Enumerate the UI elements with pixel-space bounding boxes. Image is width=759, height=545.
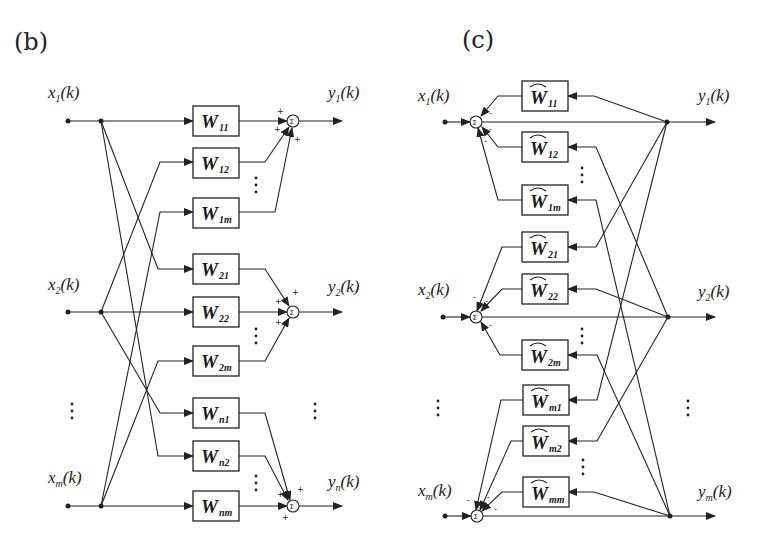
svg-text:W: W — [201, 203, 219, 224]
block-What21: W21 — [522, 232, 568, 262]
svg-text:+: + — [277, 107, 284, 116]
svg-text:11: 11 — [548, 98, 557, 109]
summing-junction-b2: Σ + + + — [239, 269, 342, 361]
svg-text:-: - — [489, 109, 492, 118]
svg-text:2m: 2m — [547, 357, 561, 368]
summing-junction-b3: Σ + + + — [239, 413, 342, 522]
summing-junction-b1: Σ + + + — [239, 107, 342, 212]
svg-text:Σ: Σ — [290, 309, 294, 317]
svg-text:-: - — [484, 137, 487, 146]
svg-text:Σ: Σ — [474, 513, 478, 521]
svg-text:m1: m1 — [549, 402, 562, 413]
svg-text:W: W — [531, 432, 549, 453]
summing-junction-c3: Σ - - - — [467, 400, 523, 522]
svg-text:W: W — [201, 153, 219, 174]
input-lines-b — [66, 119, 194, 509]
svg-text:Σ: Σ — [290, 503, 294, 511]
svg-text:21: 21 — [218, 270, 229, 281]
input-label-xm: xm(k) — [47, 468, 82, 489]
svg-text:1m: 1m — [219, 214, 232, 225]
svg-text:12: 12 — [219, 164, 229, 175]
svg-text:W: W — [201, 111, 219, 132]
svg-text:W: W — [530, 191, 548, 212]
svg-text:W: W — [201, 403, 219, 424]
block-W2m: W2m — [193, 346, 239, 376]
panel-c-label: (c) — [462, 26, 494, 54]
svg-text:+: + — [297, 485, 304, 494]
panel-b-label: (b) — [14, 28, 48, 56]
svg-text:+: + — [275, 297, 282, 306]
svg-text:+: + — [294, 135, 301, 144]
block-Whatmm: Wmm — [523, 477, 569, 507]
svg-text:22: 22 — [218, 313, 229, 324]
block-What2m: W2m — [522, 340, 568, 370]
block-W11: W11 — [193, 106, 239, 136]
svg-text:Σ: Σ — [473, 314, 477, 322]
svg-text:W: W — [530, 346, 548, 367]
svg-text:W: W — [531, 483, 549, 504]
svg-text:22: 22 — [547, 291, 558, 302]
svg-text:21: 21 — [547, 249, 558, 260]
svg-text:12: 12 — [548, 149, 558, 160]
output-label-y2: y2(k) — [326, 277, 360, 298]
svg-text:+: + — [277, 490, 284, 499]
output-label-y2: y2(k) — [696, 282, 730, 303]
svg-text:W: W — [530, 280, 548, 301]
svg-text:W: W — [530, 87, 548, 108]
block-W1m: W1m — [193, 198, 239, 228]
svg-text:Σ: Σ — [473, 119, 477, 127]
output-label-ym: ym(k) — [696, 482, 732, 503]
block-Wn1: Wn1 — [193, 398, 239, 428]
svg-text:m2: m2 — [549, 443, 562, 454]
svg-text:-: - — [489, 125, 492, 134]
summing-junction-c2: Σ - - - — [470, 247, 522, 355]
svg-text:Σ: Σ — [290, 118, 294, 126]
svg-text:-: - — [494, 505, 497, 514]
svg-text:mm: mm — [549, 494, 565, 505]
svg-text:11: 11 — [219, 122, 228, 133]
svg-text:n2: n2 — [219, 457, 230, 468]
block-W12: W12 — [193, 148, 239, 178]
input-label-x2: x2(k) — [47, 275, 80, 296]
svg-text:+: + — [275, 318, 282, 327]
svg-text:W: W — [530, 138, 548, 159]
block-Whatm2: Wm2 — [523, 426, 569, 456]
diagram-canvas: (b) x1(k) x2(k) xm(k) y1(k) y2(k) yn(k) — [0, 0, 759, 545]
input-label-x2: x2(k) — [417, 280, 450, 301]
block-What11: W11 — [522, 81, 568, 111]
svg-text:1m: 1m — [548, 202, 561, 213]
svg-text:+: + — [274, 125, 281, 134]
panel-b: (b) x1(k) x2(k) xm(k) y1(k) y2(k) yn(k) — [14, 28, 360, 522]
block-Wn2: Wn2 — [193, 441, 239, 471]
feedback-lines-c — [568, 96, 670, 516]
svg-text:n1: n1 — [219, 414, 230, 425]
svg-text:-: - — [467, 496, 470, 505]
panel-c: (c) x1(k) x2(k) xm(k) y1(k) y2(k) ym(k) — [417, 26, 732, 522]
summing-junction-c1: Σ - - - — [470, 96, 522, 200]
svg-text:-: - — [487, 493, 490, 502]
block-W22: W22 — [193, 297, 239, 327]
output-label-y1: y1(k) — [696, 86, 730, 107]
input-label-x1: x1(k) — [47, 83, 80, 104]
svg-text:W: W — [201, 446, 219, 467]
svg-text:2m: 2m — [218, 362, 232, 373]
output-label-yn: yn(k) — [326, 472, 360, 493]
svg-text:-: - — [485, 297, 488, 306]
block-W21: W21 — [193, 254, 239, 284]
svg-text:nm: nm — [219, 507, 233, 518]
block-Wnm: Wnm — [193, 491, 239, 521]
input-label-x1: x1(k) — [417, 86, 450, 107]
svg-text:W: W — [201, 302, 219, 323]
svg-text:-: - — [489, 321, 492, 330]
svg-text:W: W — [531, 391, 549, 412]
svg-text:W: W — [201, 351, 219, 372]
block-What12: W12 — [522, 132, 568, 162]
svg-text:+: + — [292, 288, 299, 297]
output-label-y1: y1(k) — [326, 83, 360, 104]
block-Whatm1: Wm1 — [523, 385, 569, 415]
svg-text:W: W — [201, 496, 219, 517]
svg-text:W: W — [201, 259, 219, 280]
svg-text:W: W — [530, 238, 548, 259]
input-label-xm: xm(k) — [417, 481, 452, 502]
block-What22: W22 — [522, 274, 568, 304]
